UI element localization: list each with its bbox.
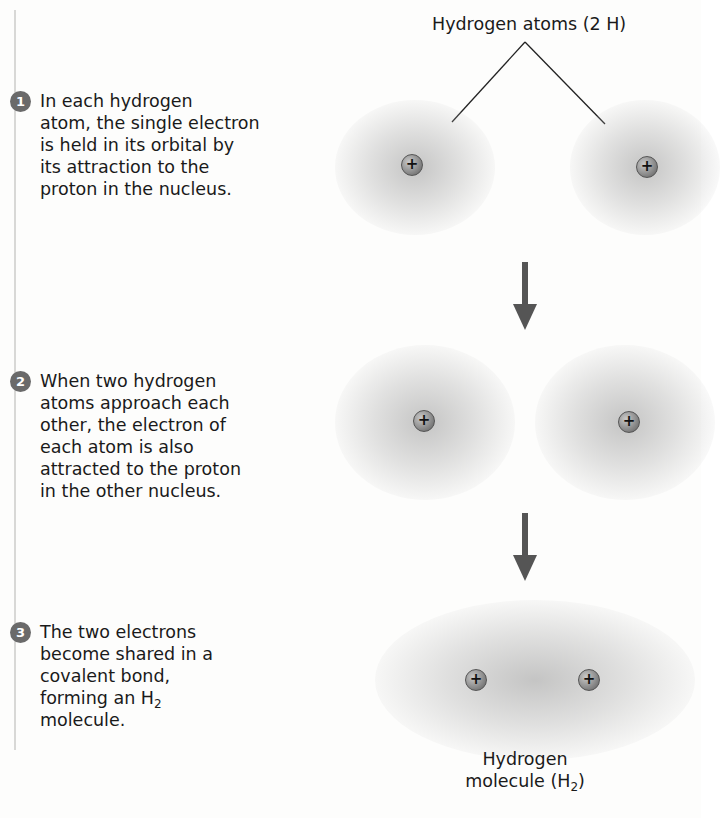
step-1-text: In each hydrogen atom, the single electr… [40,90,320,200]
hydrogen-molecule-label: Hydrogen molecule (H2) [445,748,605,792]
shared-electron-cloud [375,600,695,760]
step-3: 3 The two electrons become shared in a c… [40,621,320,731]
hydrogen-atoms-label: Hydrogen atoms (2 H) [432,14,626,34]
proton-icon: + [618,411,640,433]
step-2: 2 When two hydrogen atoms approach each … [40,370,320,502]
step-number-badge: 2 [10,371,31,392]
step-number-badge: 1 [10,91,31,112]
down-arrow-icon [513,513,537,583]
proton-icon: + [465,669,487,691]
proton-icon: + [401,154,423,176]
step-3-text: The two electrons become shared in a cov… [40,621,320,731]
down-arrow-icon [513,262,537,332]
proton-icon: + [413,410,435,432]
step-1: 1 In each hydrogen atom, the single elec… [40,90,320,200]
proton-icon: + [636,156,658,178]
proton-icon: + [578,669,600,691]
step-2-text: When two hydrogen atoms approach each ot… [40,370,320,502]
step-number-badge: 3 [10,622,31,643]
